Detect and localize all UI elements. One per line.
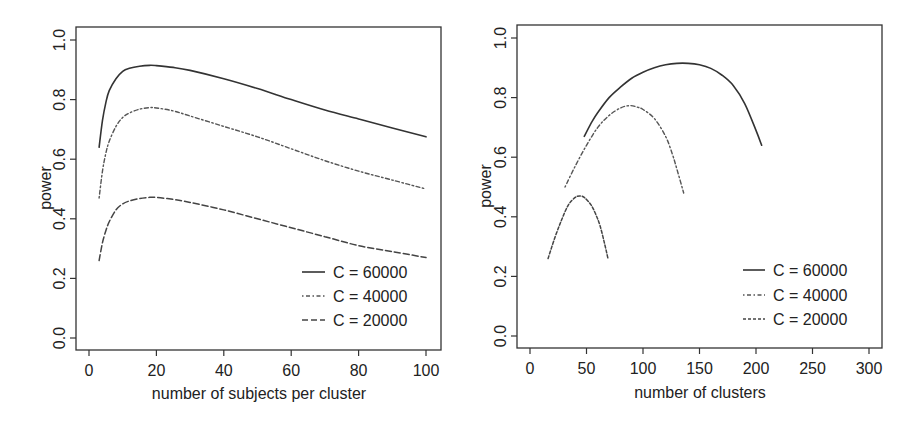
y-tick-label: 0.6 <box>492 146 509 168</box>
y-tick-label: 0.8 <box>492 86 509 108</box>
x-tick-label: 60 <box>282 362 300 379</box>
right-x-axis: 050100150200250300 <box>526 348 883 377</box>
left-legend: C = 60000C = 40000C = 20000 <box>302 264 407 329</box>
left-panel: 0.00.20.40.60.81.0 020406080100 power nu… <box>37 27 441 402</box>
x-tick-label: 0 <box>526 360 535 377</box>
legend-label: C = 20000 <box>333 312 407 329</box>
right-y-axis-title: power <box>477 164 494 208</box>
y-tick-label: 0.2 <box>51 267 68 289</box>
series-line-60000 <box>99 65 426 147</box>
x-tick-label: 20 <box>148 362 166 379</box>
legend-label: C = 40000 <box>333 288 407 305</box>
left-x-axis: 020406080100 <box>85 350 440 379</box>
x-tick-label: 300 <box>856 360 883 377</box>
y-tick-label: 1.0 <box>492 27 509 49</box>
series-line-40000 <box>565 106 684 193</box>
right-panel: 0.00.20.40.60.81.0 050100150200250300 po… <box>477 25 882 401</box>
y-tick-label: 0.0 <box>492 325 509 347</box>
x-tick-label: 40 <box>215 362 233 379</box>
y-tick-label: 0.0 <box>51 327 68 349</box>
legend-label: C = 20000 <box>773 311 847 328</box>
x-tick-label: 100 <box>630 360 657 377</box>
right-y-axis: 0.00.20.40.60.81.0 <box>492 27 517 347</box>
left-curves <box>99 65 426 260</box>
x-tick-label: 80 <box>350 362 368 379</box>
series-line-20000 <box>548 196 608 259</box>
y-tick-label: 0.4 <box>51 208 68 230</box>
y-tick-label: 1.0 <box>51 29 68 51</box>
y-tick-label: 0.4 <box>492 206 509 228</box>
series-line-20000 <box>99 197 426 260</box>
y-tick-label: 0.8 <box>51 88 68 110</box>
left-y-axis: 0.00.20.40.60.81.0 <box>51 29 76 349</box>
legend-label: C = 40000 <box>773 287 847 304</box>
right-curves <box>548 63 762 258</box>
x-tick-label: 0 <box>85 362 94 379</box>
series-line-40000 <box>99 108 426 198</box>
x-tick-label: 150 <box>686 360 713 377</box>
x-tick-label: 50 <box>578 360 596 377</box>
legend-label: C = 60000 <box>333 264 407 281</box>
left-x-axis-title: number of subjects per cluster <box>152 385 367 402</box>
legend-label: C = 60000 <box>773 262 847 279</box>
x-tick-label: 250 <box>799 360 826 377</box>
chart-canvas: 0.00.20.40.60.81.0 020406080100 power nu… <box>0 0 918 428</box>
figure: 0.00.20.40.60.81.0 020406080100 power nu… <box>0 0 918 428</box>
right-x-axis-title: number of clusters <box>634 384 766 401</box>
series-line-60000 <box>584 63 761 145</box>
left-y-axis-title: power <box>37 166 54 210</box>
y-tick-label: 0.2 <box>492 265 509 287</box>
x-tick-label: 100 <box>413 362 440 379</box>
right-legend: C = 60000C = 40000C = 20000 <box>743 262 847 328</box>
x-tick-label: 200 <box>743 360 770 377</box>
